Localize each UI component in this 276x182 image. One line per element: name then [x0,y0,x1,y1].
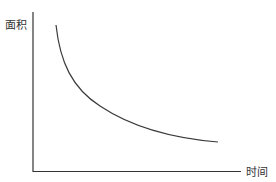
plot-area [0,0,276,182]
y-axis-label: 面积 [5,16,27,32]
chart: 面积 时间 [0,0,276,182]
data-curve [56,25,218,142]
x-axis-label: 时间 [246,163,268,179]
